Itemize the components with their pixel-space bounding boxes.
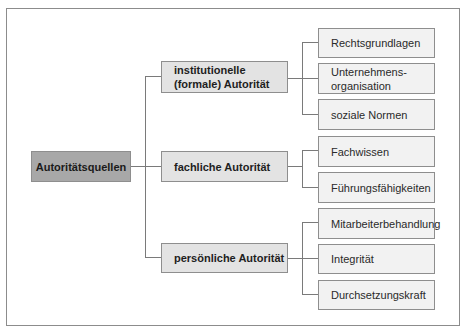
branch-label-line1: institutionelle: [174, 63, 246, 77]
leaf-integrity: Integrität: [318, 244, 435, 274]
connector-root: [131, 166, 145, 167]
connector-branch-3: [145, 257, 161, 258]
leaf-label-line1: Unternehmens-: [331, 65, 407, 79]
leaf-label: Führungsfähigkeiten: [331, 181, 431, 195]
connector-b1-c3: [302, 114, 318, 115]
connector-b2-c1: [302, 150, 318, 151]
connector-branch-1: [145, 76, 161, 77]
connector-b1-out: [288, 78, 302, 79]
branch-label: fachliche Autorität: [174, 160, 270, 174]
connector-b3-c1: [302, 222, 318, 223]
leaf-label: Mitarbeiterbehandlung: [331, 217, 440, 231]
branch-institutional-authority: institutionelle (formale) Autorität: [161, 61, 288, 93]
leaf-leadership-skills: Führungsfähigkeiten: [318, 172, 435, 203]
leaf-label: soziale Normen: [331, 108, 407, 122]
root-node: Autoritätsquellen: [31, 151, 131, 182]
branch-label: persönliche Autorität: [174, 251, 284, 265]
branch-label-line2: (formale) Autorität: [174, 77, 270, 91]
connector-b2-out: [288, 166, 302, 167]
connector-b1-c2: [302, 78, 318, 79]
leaf-assertiveness: Durchsetzungskraft: [318, 280, 435, 310]
root-node-label: Autoritätsquellen: [36, 160, 126, 174]
connector-b3-c3: [302, 294, 318, 295]
leaf-expertise: Fachwissen: [318, 136, 435, 167]
connector-spine-b2: [302, 150, 303, 187]
leaf-social-norms: soziale Normen: [318, 99, 435, 130]
connector-b3-out: [288, 258, 302, 259]
branch-personal-authority: persönliche Autorität: [161, 243, 288, 273]
leaf-employee-treatment: Mitarbeiterbehandlung: [318, 208, 435, 239]
leaf-label-line2: organisation: [331, 79, 391, 93]
branch-professional-authority: fachliche Autorität: [161, 151, 288, 182]
leaf-label: Integrität: [331, 252, 374, 266]
leaf-label: Rechtsgrundlagen: [331, 36, 420, 50]
connector-b2-c2: [302, 187, 318, 188]
leaf-company-organization: Unternehmens- organisation: [318, 63, 435, 94]
leaf-label: Fachwissen: [331, 145, 389, 159]
leaf-label: Durchsetzungskraft: [331, 288, 426, 302]
connector-b1-c1: [302, 42, 318, 43]
connector-branch-2: [145, 166, 161, 167]
connector-spine-1: [145, 76, 146, 258]
connector-b3-c2: [302, 258, 318, 259]
leaf-legal-basis: Rechtsgrundlagen: [318, 28, 435, 58]
